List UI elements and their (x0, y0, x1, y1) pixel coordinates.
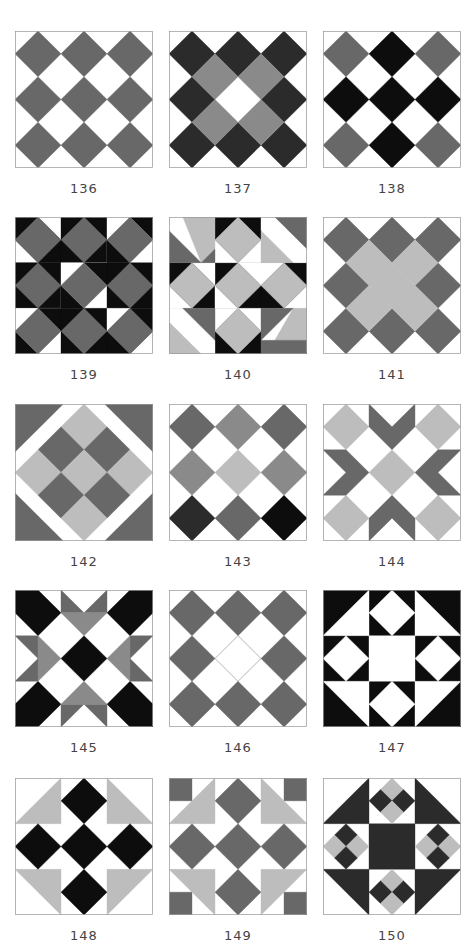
quilt-block-149 (169, 778, 307, 915)
quilt-block-pattern (169, 31, 307, 168)
quilt-patch (369, 636, 415, 682)
block-number-label: 136 (15, 181, 153, 196)
block-number-label: 141 (323, 367, 461, 382)
quilt-block-141 (323, 217, 461, 354)
quilt-block-143 (169, 404, 307, 541)
block-number-label: 147 (323, 740, 461, 755)
quilt-block-pattern (15, 590, 153, 727)
quilt-block-pattern (323, 404, 461, 541)
block-number-label: 149 (169, 928, 307, 943)
quilt-patch (169, 892, 192, 915)
block-number-label: 138 (323, 181, 461, 196)
quilt-block-pattern (15, 217, 153, 354)
quilt-block-142 (15, 404, 153, 541)
quilt-block-139 (15, 217, 153, 354)
quilt-block-147 (323, 590, 461, 727)
quilt-block-pattern (169, 217, 307, 354)
quilt-block-146 (169, 590, 307, 727)
quilt-block-pattern (15, 404, 153, 541)
block-number-label: 146 (169, 740, 307, 755)
quilt-patch (169, 778, 192, 801)
quilt-block-144 (323, 404, 461, 541)
quilt-patch (261, 340, 307, 354)
block-number-label: 137 (169, 181, 307, 196)
quilt-block-pattern (323, 217, 461, 354)
quilt-block-pattern (169, 404, 307, 541)
quilt-block-145 (15, 590, 153, 727)
block-number-label: 140 (169, 367, 307, 382)
quilt-block-137 (169, 31, 307, 168)
quilt-block-pattern (169, 778, 307, 915)
quilt-block-150 (323, 778, 461, 915)
quilt-block-138 (323, 31, 461, 168)
quilt-patch (284, 892, 307, 915)
quilt-block-pattern (15, 778, 153, 915)
quilt-block-136 (15, 31, 153, 168)
block-number-label: 144 (323, 554, 461, 569)
quilt-patch (284, 778, 307, 801)
block-number-label: 150 (323, 928, 461, 943)
block-number-label: 142 (15, 554, 153, 569)
quilt-block-pattern (15, 31, 153, 168)
quilt-block-pattern (169, 590, 307, 727)
quilt-block-pattern (323, 778, 461, 915)
quilt-patch (369, 824, 415, 870)
block-number-label: 145 (15, 740, 153, 755)
quilt-block-pattern (323, 590, 461, 727)
block-number-label: 139 (15, 367, 153, 382)
quilt-block-140 (169, 217, 307, 354)
quilt-block-148 (15, 778, 153, 915)
block-number-label: 143 (169, 554, 307, 569)
block-number-label: 148 (15, 928, 153, 943)
quilt-block-pattern (323, 31, 461, 168)
